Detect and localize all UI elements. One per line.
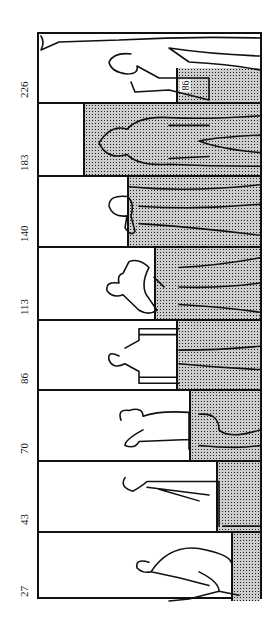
panel-70	[39, 389, 260, 460]
depth-label-43: 43	[18, 514, 30, 525]
depth-label-27: 27	[18, 586, 30, 597]
thigh-deep-figure-icon	[39, 391, 260, 460]
diagram-frame: 86	[37, 32, 262, 599]
standing-figure-icon	[39, 34, 260, 102]
depth-label-226: 226	[18, 82, 30, 99]
panel-226: 86	[39, 34, 260, 102]
panel-43	[39, 460, 260, 531]
shoulder-deep-figure-icon	[39, 177, 260, 246]
ankle-deep-figure-icon	[39, 533, 260, 601]
panel-140	[39, 175, 260, 246]
depth-label-86: 86	[18, 373, 30, 384]
knee-deep-figure-icon	[39, 462, 260, 531]
panel-86	[39, 319, 260, 389]
waist-deep-figure-icon	[39, 321, 260, 389]
depth-label-140: 140	[18, 226, 30, 243]
submerged-standing-figure-icon	[39, 104, 260, 175]
chest-deep-figure-icon	[39, 248, 260, 319]
depth-label-183: 183	[18, 155, 30, 172]
depth-label-113: 113	[18, 299, 30, 315]
panel-183	[39, 102, 260, 175]
panel-27	[39, 531, 260, 601]
depth-label-70: 70	[18, 443, 30, 454]
panel-113	[39, 246, 260, 319]
